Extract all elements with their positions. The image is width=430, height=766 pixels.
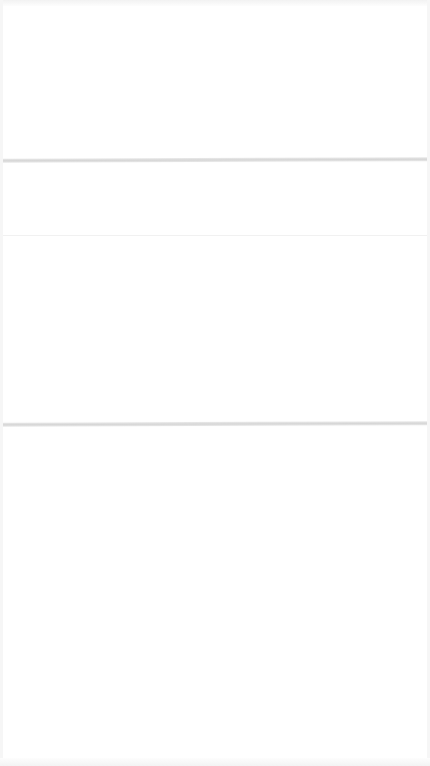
blank-page (0, 0, 430, 766)
faint-divider (0, 235, 430, 236)
middle-area (0, 163, 430, 421)
separator-2 (0, 421, 430, 427)
content-area (0, 427, 430, 758)
bottom-band (0, 758, 430, 766)
separator-1 (0, 157, 430, 163)
left-edge-shadow (0, 0, 3, 766)
header-area (0, 6, 430, 158)
